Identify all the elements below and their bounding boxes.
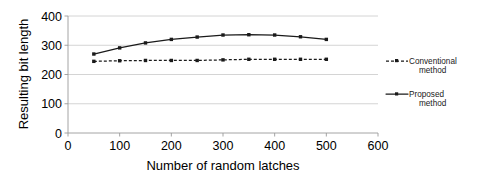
data-point-marker bbox=[118, 46, 121, 49]
x-tick-label: 300 bbox=[213, 139, 234, 153]
y-tick-label: 200 bbox=[41, 68, 62, 82]
data-point-marker bbox=[195, 35, 198, 38]
legend-label-conventional-line1: Conventional bbox=[409, 57, 457, 66]
chart-background bbox=[0, 0, 481, 178]
legend-label-proposed-line1: Proposed bbox=[409, 90, 444, 99]
legend-swatch-solid-marker bbox=[395, 92, 398, 95]
data-point-marker bbox=[170, 59, 173, 62]
data-point-marker bbox=[325, 38, 328, 41]
data-point-marker bbox=[299, 58, 302, 61]
legend-swatch-dashed-marker bbox=[395, 59, 398, 62]
x-axis-title: Number of random latches bbox=[146, 158, 300, 173]
data-point-marker bbox=[144, 41, 147, 44]
x-tick-label: 200 bbox=[161, 139, 182, 153]
data-point-marker bbox=[221, 33, 224, 36]
x-tick-label: 600 bbox=[368, 139, 389, 153]
data-point-marker bbox=[273, 58, 276, 61]
y-tick-label: 100 bbox=[41, 97, 62, 111]
x-tick-label: 0 bbox=[65, 139, 72, 153]
y-tick-label: 0 bbox=[55, 127, 62, 141]
data-point-marker bbox=[247, 33, 250, 36]
legend-label-proposed-line2: method bbox=[419, 99, 447, 108]
y-axis-title: Resulting bit length bbox=[16, 19, 31, 130]
legend-label-conventional-line2: method bbox=[419, 66, 447, 75]
line-chart: 0100200300400 0100200300400500600 Result… bbox=[0, 0, 481, 178]
x-tick-label: 100 bbox=[109, 139, 130, 153]
data-point-marker bbox=[221, 58, 224, 61]
data-point-marker bbox=[118, 59, 121, 62]
x-tick-label: 500 bbox=[316, 139, 337, 153]
data-point-marker bbox=[195, 59, 198, 62]
x-tick-label: 400 bbox=[264, 139, 285, 153]
data-point-marker bbox=[170, 38, 173, 41]
data-point-marker bbox=[247, 58, 250, 61]
data-point-marker bbox=[325, 58, 328, 61]
data-point-marker bbox=[144, 59, 147, 62]
data-point-marker bbox=[299, 35, 302, 38]
data-point-marker bbox=[273, 33, 276, 36]
y-tick-label: 400 bbox=[41, 10, 62, 24]
data-point-marker bbox=[92, 60, 95, 63]
chart-figure: 0100200300400 0100200300400500600 Result… bbox=[0, 0, 481, 178]
y-tick-label: 300 bbox=[41, 39, 62, 53]
data-point-marker bbox=[92, 52, 95, 55]
